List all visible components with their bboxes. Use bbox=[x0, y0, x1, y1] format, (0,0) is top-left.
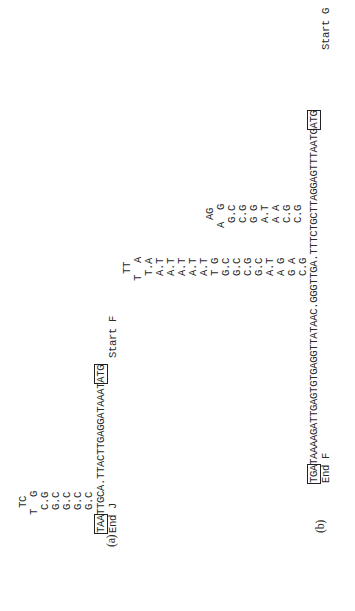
panel-b-label: (b) bbox=[315, 520, 326, 533]
stop-codon-box: TAA bbox=[95, 515, 107, 533]
panel-a-seq-middle: TTGCA.TTACTTGAGGATAAAT bbox=[95, 383, 107, 515]
start-codon-box: ATG bbox=[308, 111, 320, 129]
panel-b-end-label: End F bbox=[321, 453, 332, 483]
panel-b-hp2-stem-6: C.G bbox=[293, 205, 304, 223]
panel-a-sequence: TAATTGCA.TTACTTGAGGATAAATATG bbox=[96, 365, 107, 533]
panel-b-seq-middle: TAAAAGATTGAGTGTGAGGTTATAAC.GGGTTGA.TTTCT… bbox=[308, 129, 320, 465]
panel-a-end-label: End J bbox=[108, 503, 119, 533]
stop-codon-box: TGA bbox=[308, 465, 320, 483]
rotated-figure: (a) TC T G C.G G.C G.C G.C G.C TAATTGCA.… bbox=[0, 0, 355, 611]
panel-b-sequence: TGATAAAAGATTGAGTGTGAGGTTATAAC.GGGTTGA.TT… bbox=[309, 111, 320, 483]
panel-a-start-label: Start F bbox=[108, 316, 119, 358]
panel-a-label: (a) bbox=[106, 535, 117, 547]
panel-b-start-label: Start G bbox=[321, 8, 332, 50]
panel-a-hp1-stem-4: G.C bbox=[84, 492, 95, 510]
start-codon-box: ATG bbox=[95, 365, 107, 383]
